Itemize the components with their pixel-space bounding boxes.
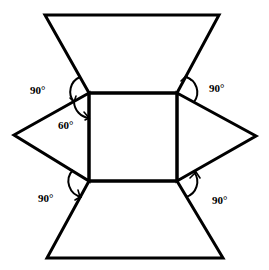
left-triangle-face [14, 93, 89, 181]
angle-label-top-left: 90° [30, 84, 45, 96]
angle-label-bottom-left: 90° [38, 192, 53, 204]
angle-label-left-60: 60° [58, 119, 73, 131]
angle-label-bottom-right: 90° [212, 194, 227, 206]
diagram-canvas: 90° 60° 90° 90° 90° [0, 0, 269, 270]
net-diagram: 90° 60° 90° 90° 90° [0, 0, 269, 270]
angle-label-top-right: 90° [209, 82, 224, 94]
right-triangle-face [177, 93, 256, 181]
center-square-face [89, 93, 177, 181]
